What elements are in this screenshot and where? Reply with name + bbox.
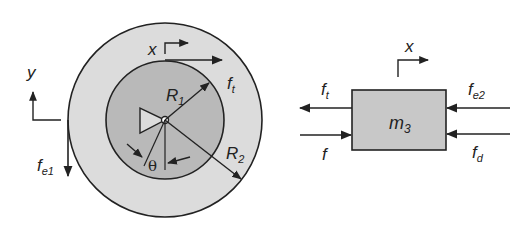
mass-label: m: [389, 113, 404, 133]
svg-text:fe1: fe1: [37, 156, 54, 177]
r2-subscript: 2: [237, 153, 244, 165]
wheel-y-label: y: [26, 63, 37, 82]
block-x-axis-indicator: [398, 60, 428, 77]
svg-text:fd: fd: [472, 143, 484, 164]
theta-label: θ: [148, 157, 157, 175]
mass-subscript: 3: [404, 122, 411, 136]
block-fd-subscript: d: [477, 152, 484, 164]
block-fe2-subscript: e2: [473, 89, 485, 101]
svg-text:ft: ft: [321, 80, 330, 101]
fe1-subscript: e1: [42, 165, 54, 177]
block-ft-subscript: t: [326, 89, 330, 101]
block-diagram: m3 x ft f fe2 fd: [300, 37, 510, 164]
free-body-diagram: R1 R2 θ x ft y fe1 m3 x ft f: [0, 0, 531, 233]
r1-subscript: 1: [178, 95, 184, 107]
r2-label: R: [226, 144, 238, 163]
svg-text:fe2: fe2: [468, 80, 485, 101]
wheel-diagram: R1 R2 θ x ft y fe1: [26, 23, 262, 217]
block-x-label: x: [404, 37, 414, 56]
wheel-x-label: x: [147, 40, 157, 59]
r1-label: R: [166, 86, 178, 105]
block-f-label: f: [322, 145, 329, 164]
y-axis-indicator: [33, 92, 61, 120]
